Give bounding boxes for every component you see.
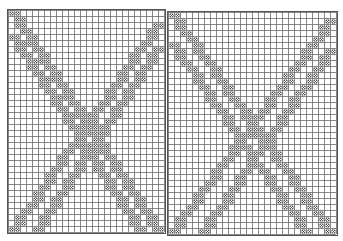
chart-panel-right (167, 11, 338, 236)
chart-panel-left (7, 9, 166, 234)
grid-right (168, 12, 337, 235)
grid-left (8, 10, 165, 233)
knitting-chart (0, 0, 343, 241)
